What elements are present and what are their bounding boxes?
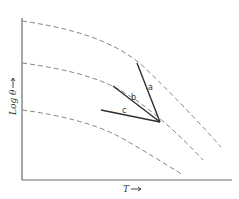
x-axis-label-group: T — [123, 184, 141, 194]
curve-2 — [22, 63, 203, 160]
y-axis-arrow-icon — [11, 78, 15, 88]
line-a-label: a — [148, 83, 153, 92]
curve-1 — [22, 21, 221, 147]
x-axis-label: T — [123, 184, 130, 194]
y-axis-label: Log θ — [8, 89, 18, 116]
x-axis-arrow-icon — [131, 187, 141, 191]
line-b-label: b — [131, 93, 136, 102]
line-c-label: c — [122, 106, 126, 115]
y-axis-label-group: Log θ — [8, 78, 18, 116]
log-theta-vs-t-diagram: a b c T Log θ — [0, 0, 239, 199]
